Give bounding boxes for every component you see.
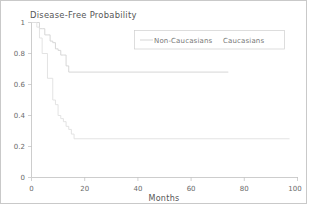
x-axis-title: Months [148, 194, 179, 203]
x-tick-label: 0 [29, 185, 33, 193]
y-tick-label: 0.2 [14, 143, 25, 151]
y-tick-label: 1 [21, 19, 25, 27]
chart-title: Disease-Free Probability [30, 10, 137, 20]
figure-frame: Disease-Free Probability 0 0.2 0.4 0.6 0… [0, 0, 307, 204]
x-tick-label: 100 [288, 185, 301, 193]
y-tick-label: 0.4 [14, 112, 26, 120]
chart-legend[interactable]: Non-Caucasians Caucasians [135, 31, 285, 50]
y-tick-label: 0 [21, 174, 25, 182]
y-axis-ticks: 0 0.2 0.4 0.6 0.8 1 [14, 19, 32, 182]
x-tick-label: 80 [240, 185, 249, 193]
legend-label-caucasians[interactable]: Caucasians [223, 37, 264, 45]
x-tick-label: 20 [80, 185, 89, 193]
y-tick-label: 0.8 [14, 50, 25, 58]
legend-label-non-caucasians[interactable]: Non-Caucasians [154, 37, 213, 45]
x-axis-ticks: 0 20 40 60 80 100 [29, 178, 301, 194]
x-tick-label: 40 [133, 185, 142, 193]
chart-svg: Disease-Free Probability 0 0.2 0.4 0.6 0… [1, 1, 308, 205]
chart-canvas: Disease-Free Probability 0 0.2 0.4 0.6 0… [1, 1, 308, 205]
x-tick-label: 60 [187, 185, 196, 193]
y-tick-label: 0.6 [14, 81, 26, 89]
